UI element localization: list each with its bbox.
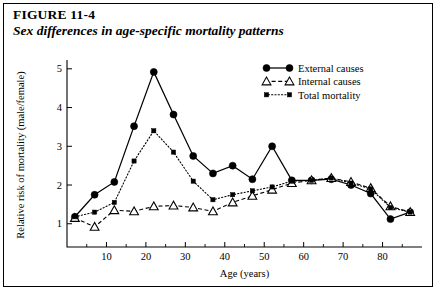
data-point xyxy=(250,189,254,193)
series-line xyxy=(75,178,410,227)
series-internal-causes xyxy=(70,174,414,231)
data-point xyxy=(110,206,119,214)
x-tick-label: 70 xyxy=(338,251,349,262)
figure-frame: FIGURE 11-4 Sex differences in age-speci… xyxy=(3,3,433,287)
series-total-mortality xyxy=(73,129,412,219)
data-point xyxy=(90,222,99,230)
data-point xyxy=(149,202,158,210)
x-tick-label: 60 xyxy=(298,251,309,262)
axes-layer xyxy=(67,60,422,247)
data-point xyxy=(290,179,294,183)
y-tick-label: 4 xyxy=(57,102,63,113)
data-point xyxy=(171,150,175,154)
legend-marker xyxy=(263,65,270,72)
series-line xyxy=(75,131,410,217)
data-point xyxy=(152,129,156,133)
data-point xyxy=(387,216,394,223)
x-tick-label: 30 xyxy=(180,251,191,262)
plot-axes xyxy=(67,60,422,247)
mortality-line-chart: External causesInternal causesTotal mort… xyxy=(4,4,434,288)
data-point xyxy=(73,215,77,219)
data-point xyxy=(329,176,333,180)
data-point xyxy=(231,193,235,197)
legend-label: Internal causes xyxy=(298,76,361,87)
legend-marker xyxy=(264,93,268,97)
legend-layer: External causesInternal causesTotal mort… xyxy=(262,63,364,101)
chart-canvas: External causesInternal causesTotal mort… xyxy=(4,4,434,288)
data-point xyxy=(209,170,216,177)
data-point xyxy=(369,187,373,191)
x-tick-label: 10 xyxy=(101,251,112,262)
series-layer xyxy=(70,68,414,230)
y-axis-title: Relative risk of mortality (male/female) xyxy=(15,71,27,239)
legend-item-total-mortality: Total mortality xyxy=(264,90,361,101)
y-tick-label: 5 xyxy=(57,63,62,74)
y-tick-label: 1 xyxy=(57,218,62,229)
x-tick-label: 40 xyxy=(220,251,231,262)
data-point xyxy=(112,200,116,204)
data-point xyxy=(93,210,97,214)
x-tick-label: 80 xyxy=(377,251,388,262)
data-point xyxy=(191,179,195,183)
y-tick-label: 3 xyxy=(57,141,62,152)
x-axis-title: Age (years) xyxy=(220,268,270,280)
data-point xyxy=(270,185,274,189)
data-point xyxy=(349,181,353,185)
data-point xyxy=(169,201,178,209)
data-point xyxy=(388,205,392,209)
legend-label: External causes xyxy=(298,63,364,74)
data-point xyxy=(91,191,98,198)
legend-marker xyxy=(262,77,271,85)
data-point xyxy=(229,162,236,169)
data-point xyxy=(150,68,157,75)
data-point xyxy=(131,123,138,130)
legend-label: Total mortality xyxy=(298,90,361,101)
legend-item-internal-causes: Internal causes xyxy=(262,76,361,87)
data-point xyxy=(190,152,197,159)
data-point xyxy=(130,207,139,215)
data-point xyxy=(249,176,256,183)
x-tick-label: 20 xyxy=(141,251,152,262)
data-point xyxy=(269,143,276,150)
legend-marker xyxy=(287,93,291,97)
data-point xyxy=(309,178,313,182)
data-point xyxy=(209,207,218,215)
x-tick-label: 50 xyxy=(259,251,270,262)
data-point xyxy=(408,210,412,214)
data-point xyxy=(211,198,215,202)
y-tick-label: 2 xyxy=(57,180,62,191)
data-point xyxy=(170,111,177,118)
data-point xyxy=(189,203,198,211)
legend-marker xyxy=(286,65,293,72)
legend-item-external-causes: External causes xyxy=(263,63,364,74)
data-point xyxy=(111,178,118,185)
data-point xyxy=(132,159,136,163)
